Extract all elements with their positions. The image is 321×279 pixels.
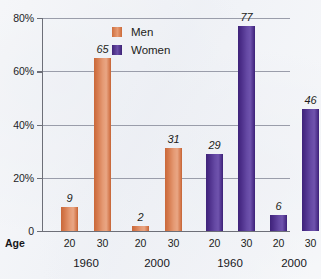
group-label-women-1960: 1960 bbox=[217, 257, 243, 269]
bar-women-1960-age20: 29 bbox=[206, 154, 223, 231]
bar-women-2000-age30: 46 bbox=[302, 109, 319, 231]
x-tick-label-women-2000-age30: 30 bbox=[305, 237, 317, 249]
x-tick-label-women-2000-age20: 20 bbox=[273, 237, 285, 249]
bar-value-women-2000-age30: 46 bbox=[304, 94, 316, 106]
x-tick-label-men-1960-age30: 30 bbox=[97, 237, 109, 249]
bar-men-2000-age20: 2 bbox=[132, 226, 149, 231]
ytick-label-80: 80% bbox=[13, 12, 34, 24]
bar-value-women-1960-age30: 77 bbox=[240, 11, 252, 23]
x-tick-label-women-1960-age30: 30 bbox=[241, 237, 253, 249]
x-tick-label-women-1960-age20: 20 bbox=[209, 237, 221, 249]
legend-label-men: Men bbox=[131, 26, 153, 38]
ytick-label-0: 0 bbox=[28, 225, 34, 237]
legend-swatch-women-icon bbox=[112, 45, 122, 55]
bar-men-1960-age20: 9 bbox=[61, 207, 78, 231]
x-tick-label-men-2000-age30: 30 bbox=[168, 237, 180, 249]
legend-item-women: Women bbox=[112, 44, 170, 56]
bar-men-2000-age30: 31 bbox=[165, 148, 182, 231]
group-label-women-2000: 2000 bbox=[281, 257, 307, 269]
bar-men-1960-age30: 65 bbox=[94, 58, 111, 231]
group-label-men-2000: 2000 bbox=[144, 257, 170, 269]
ytick-label-40: 40% bbox=[13, 119, 34, 131]
chart-legend: Men Women bbox=[112, 26, 170, 62]
ytick-label-20: 20% bbox=[13, 172, 34, 184]
legend-label-women: Women bbox=[131, 44, 170, 56]
bar-value-men-2000-age30: 31 bbox=[167, 133, 179, 145]
bar-women-1960-age30: 77 bbox=[238, 26, 255, 231]
bar-women-2000-age20: 6 bbox=[270, 215, 287, 231]
ytick-label-60: 60% bbox=[13, 65, 34, 77]
x-tick-label-men-2000-age20: 20 bbox=[135, 237, 147, 249]
x-tick-label-men-1960-age20: 20 bbox=[64, 237, 76, 249]
x-axis-line bbox=[42, 231, 290, 232]
group-label-men-1960: 1960 bbox=[73, 257, 99, 269]
bar-value-women-1960-age20: 29 bbox=[208, 139, 220, 151]
y-axis-line bbox=[42, 18, 43, 231]
bar-value-men-1960-age20: 9 bbox=[66, 192, 72, 204]
bar-chart: Men Women 80% 60% 40% 20% 0 9 65 bbox=[0, 0, 321, 279]
bar-value-men-2000-age20: 2 bbox=[137, 211, 143, 223]
legend-item-men: Men bbox=[112, 26, 170, 38]
gridline-80 bbox=[42, 18, 290, 19]
x-axis-age-title: Age bbox=[5, 237, 25, 249]
legend-swatch-men-icon bbox=[112, 27, 122, 37]
bar-value-women-2000-age20: 6 bbox=[275, 200, 281, 212]
x-axis-group-labels: 1960 2000 1960 2000 bbox=[42, 257, 290, 273]
x-axis-age-labels: Age 20 30 20 30 20 30 20 30 bbox=[42, 237, 290, 251]
bar-value-men-1960-age30: 65 bbox=[96, 43, 108, 55]
